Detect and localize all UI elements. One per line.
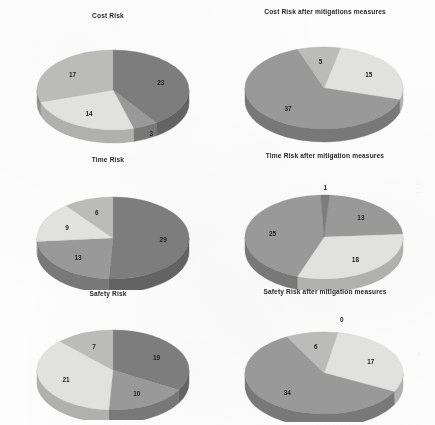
slice-label: 37 bbox=[284, 104, 291, 111]
slice-label: 13 bbox=[74, 254, 81, 261]
slice-label: 13 bbox=[357, 214, 364, 221]
scan-artifact-right-low: y bbox=[418, 350, 422, 356]
pie-safety-risk-after bbox=[222, 288, 428, 422]
slice-label: 34 bbox=[284, 389, 291, 396]
slice-label: 5 bbox=[319, 57, 323, 64]
chart-cell-cost-risk-after: Cost Risk after mitigations measures1537… bbox=[222, 8, 428, 144]
scan-artifact-right-mid: || | | bbox=[416, 182, 421, 194]
slice-label: 0 bbox=[340, 315, 344, 322]
slice-label: 10 bbox=[133, 390, 140, 397]
slice-label: 17 bbox=[367, 358, 374, 365]
slice-label: 23 bbox=[157, 79, 164, 86]
chart-cell-safety-risk-after: Safety Risk after mitigation measures173… bbox=[222, 288, 428, 422]
slice-label: 17 bbox=[69, 71, 76, 78]
chart-cell-time-risk: Time Risk291396 bbox=[8, 156, 208, 290]
pie-cost-risk bbox=[8, 12, 208, 144]
slice-label: 1 bbox=[324, 184, 328, 191]
slice-label: 7 bbox=[92, 342, 96, 349]
slice-label: 15 bbox=[365, 71, 372, 78]
slice-label: 14 bbox=[86, 110, 93, 117]
pie-time-risk-after bbox=[222, 152, 428, 290]
chart-cell-cost-risk: Cost Risk2331417 bbox=[8, 12, 208, 144]
slice-label: 6 bbox=[95, 209, 99, 216]
pie-safety-risk bbox=[8, 290, 208, 420]
document-sheet: Cost Risk2331417Cost Risk after mitigati… bbox=[0, 0, 435, 425]
slice-label: 29 bbox=[160, 235, 167, 242]
slice-label: 21 bbox=[62, 376, 69, 383]
chart-cell-safety-risk: Safety Risk1910217 bbox=[8, 290, 208, 420]
slice-label: 6 bbox=[314, 343, 318, 350]
slice-label: 25 bbox=[269, 229, 276, 236]
slice-label: 19 bbox=[153, 353, 160, 360]
chart-cell-time-risk-after: Time Risk after mitigation measures13182… bbox=[222, 152, 428, 290]
pie-cost-risk-after bbox=[222, 8, 428, 144]
pie-time-risk bbox=[8, 156, 208, 290]
slice-label: 18 bbox=[352, 256, 359, 263]
slice-label: 9 bbox=[65, 224, 69, 231]
slice-label: 3 bbox=[149, 129, 153, 136]
